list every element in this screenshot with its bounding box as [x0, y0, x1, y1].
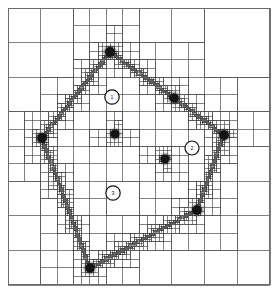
amr-mesh-figure: 123: [0, 0, 278, 293]
particle-core: [192, 205, 201, 214]
particle-core: [219, 130, 228, 139]
annotation-marker-3: 3: [106, 186, 120, 200]
particle-marker: [110, 129, 121, 140]
annotation-label: 2: [191, 145, 194, 151]
particle-marker: [36, 132, 48, 144]
particle-marker: [84, 262, 96, 274]
particle-core: [170, 94, 179, 103]
particle-marker: [159, 153, 170, 164]
particle-marker: [218, 129, 230, 141]
annotation-marker-1: 1: [105, 90, 119, 104]
particle-core: [161, 155, 169, 163]
particle-core: [111, 130, 119, 138]
particle-marker: [168, 92, 180, 104]
amr-mesh-canvas: 123: [0, 0, 278, 293]
annotation-label: 3: [112, 190, 115, 196]
particle-marker: [104, 46, 117, 59]
annotation-label: 1: [111, 94, 114, 100]
particle-core: [37, 133, 46, 142]
particle-core: [105, 47, 114, 56]
particle-marker: [191, 204, 203, 216]
particle-core: [86, 264, 95, 273]
annotation-marker-2: 2: [185, 141, 199, 155]
